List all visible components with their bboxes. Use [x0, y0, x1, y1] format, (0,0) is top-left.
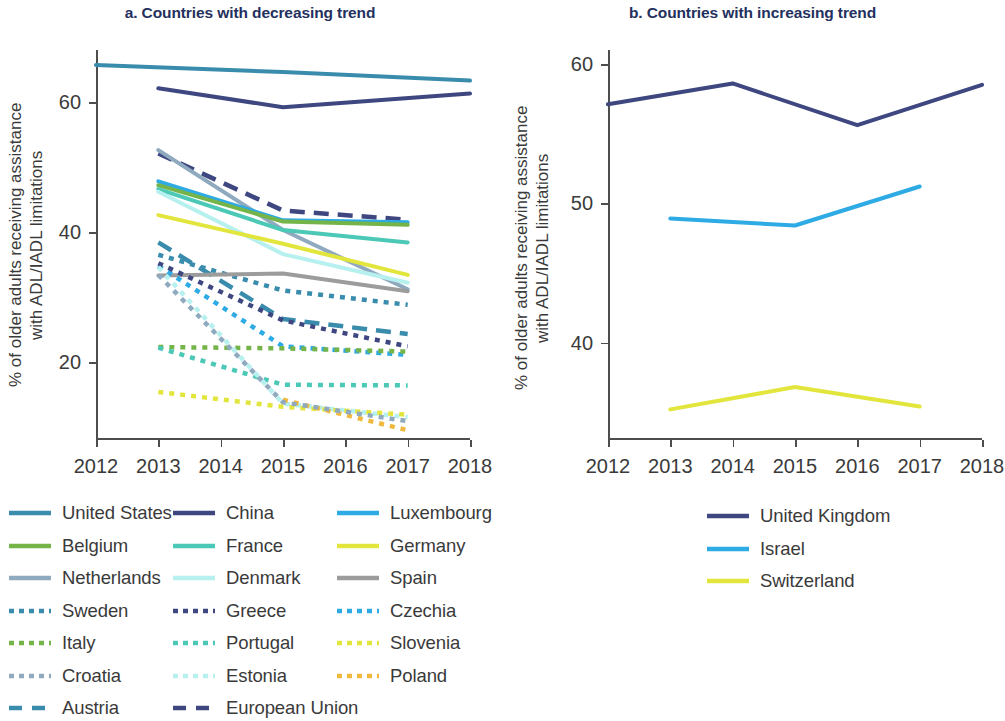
legend-item-portugal[interactable]: Portugal — [172, 627, 336, 660]
x-tick-label: 2018 — [960, 455, 1005, 478]
x-tick — [857, 440, 859, 447]
legend-label: Belgium — [62, 535, 128, 557]
x-tick-label: 2014 — [198, 455, 243, 478]
x-tick-label: 2014 — [710, 455, 755, 478]
legend-item-slovenia[interactable]: Slovenia — [336, 627, 500, 660]
x-tick-label: 2018 — [448, 455, 493, 478]
legend-label: France — [226, 535, 283, 557]
legend-item-united-states[interactable]: United States — [8, 497, 172, 530]
legend-row: United Kingdom — [706, 500, 1005, 533]
legend-label: Czechia — [390, 600, 456, 622]
x-tick — [283, 440, 285, 447]
series-line — [608, 83, 982, 125]
legend-item-netherlands[interactable]: Netherlands — [8, 562, 172, 595]
y-tick-label: 40 — [59, 221, 81, 244]
panel-b-y-axis-label: % of older adults receiving assistance w… — [512, 92, 553, 404]
x-tick — [470, 440, 472, 447]
legend-item-china[interactable]: China — [172, 497, 336, 530]
legend-item-spain[interactable]: Spain — [336, 562, 500, 595]
legend-label: Austria — [62, 697, 119, 719]
legend-item-switzerland[interactable]: Switzerland — [706, 565, 1005, 598]
x-tick — [221, 440, 223, 447]
legend-swatch-icon — [8, 602, 52, 620]
y-tick-label: 40 — [571, 331, 593, 354]
legend-item-denmark[interactable]: Denmark — [172, 562, 336, 595]
y-tick — [89, 362, 96, 364]
legend-swatch-icon — [172, 504, 216, 522]
x-tick — [982, 440, 984, 447]
x-tick — [345, 440, 347, 447]
x-tick — [670, 440, 672, 447]
legend-item-germany[interactable]: Germany — [336, 530, 500, 563]
legend-swatch-icon — [8, 537, 52, 555]
legend-label: Luxembourg — [390, 502, 492, 524]
legend-item-estonia[interactable]: Estonia — [172, 660, 336, 693]
x-tick — [408, 440, 410, 447]
legend-item-france[interactable]: France — [172, 530, 336, 563]
x-tick-label: 2012 — [74, 455, 119, 478]
legend-swatch-icon — [8, 569, 52, 587]
panel-a-plot-area: 2040602012201320142015201620172018 — [96, 50, 470, 440]
legend-label: Croatia — [62, 665, 121, 687]
legend-swatch-icon — [336, 504, 380, 522]
legend-item-italy[interactable]: Italy — [8, 627, 172, 660]
y-tick-label: 60 — [59, 91, 81, 114]
series-line — [670, 187, 919, 226]
legend-item-poland[interactable]: Poland — [336, 660, 500, 693]
legend-swatch-icon — [336, 634, 380, 652]
legend-label: Switzerland — [760, 570, 855, 592]
panel-a-series-lines — [96, 50, 470, 440]
legend-item-european-union[interactable]: European Union — [172, 692, 336, 721]
legend-label: China — [226, 502, 274, 524]
series-line — [670, 387, 919, 409]
legend-item-belgium[interactable]: Belgium — [8, 530, 172, 563]
panel-b-plot-area: 4050602012201320142015201620172018 — [608, 50, 982, 440]
x-tick-label: 2012 — [586, 455, 631, 478]
legend-item-czechia[interactable]: Czechia — [336, 595, 500, 628]
x-tick-label: 2015 — [261, 455, 306, 478]
legend-item-greece[interactable]: Greece — [172, 595, 336, 628]
legend-label: Poland — [390, 665, 447, 687]
legend-label: United States — [62, 502, 172, 524]
y-tick — [601, 64, 608, 66]
legend-row: United StatesChinaLuxembourg — [8, 497, 500, 530]
panel-a-title: a. Countries with decreasing trend — [0, 4, 500, 22]
x-tick-label: 2015 — [773, 455, 818, 478]
y-tick — [89, 232, 96, 234]
legend-swatch-icon — [336, 602, 380, 620]
legend-item-sweden[interactable]: Sweden — [8, 595, 172, 628]
x-tick-label: 2016 — [323, 455, 368, 478]
legend-row: BelgiumFranceGermany — [8, 530, 500, 563]
series-line — [158, 88, 470, 107]
legend-item-israel[interactable]: Israel — [706, 533, 1005, 566]
legend-swatch-icon — [172, 634, 216, 652]
legend-label: Portugal — [226, 632, 294, 654]
legend-item-austria[interactable]: Austria — [8, 692, 172, 721]
legend-swatch-icon — [172, 569, 216, 587]
y-tick — [89, 102, 96, 104]
x-tick — [96, 440, 98, 447]
x-tick-label: 2016 — [835, 455, 880, 478]
panel-b-series-lines — [608, 50, 982, 440]
x-tick — [920, 440, 922, 447]
legend-swatch-icon — [706, 572, 750, 590]
legend-item-croatia[interactable]: Croatia — [8, 660, 172, 693]
legend-label: Denmark — [226, 567, 300, 589]
legend-item-luxembourg[interactable]: Luxembourg — [336, 497, 500, 530]
legend-row: ItalyPortugalSlovenia — [8, 627, 500, 660]
legend-swatch-icon — [706, 507, 750, 525]
legend-label: Greece — [226, 600, 286, 622]
legend-swatch-icon — [8, 699, 52, 717]
panel-a-legend: United StatesChinaLuxembourgBelgiumFranc… — [8, 497, 500, 721]
legend-row: CroatiaEstoniaPoland — [8, 660, 500, 693]
x-tick — [795, 440, 797, 447]
panel-a-y-axis-label: % of older adults receiving assistance w… — [6, 86, 47, 404]
y-tick — [601, 343, 608, 345]
legend-label: United Kingdom — [760, 505, 890, 527]
legend-row: Switzerland — [706, 565, 1005, 598]
legend-swatch-icon — [172, 699, 216, 717]
legend-label: Italy — [62, 632, 95, 654]
legend-row: SwedenGreeceCzechia — [8, 595, 500, 628]
legend-swatch-icon — [706, 540, 750, 558]
legend-item-united-kingdom[interactable]: United Kingdom — [706, 500, 1005, 533]
